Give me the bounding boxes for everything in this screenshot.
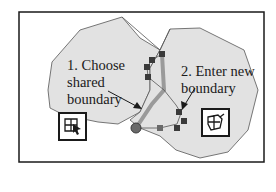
diagram-canvas: 1. Choose shared boundary 2. Enter new b… [0,0,276,192]
select-shared-boundary-icon [60,114,85,139]
vertex-marker [176,109,182,115]
start-vertex-marker [131,123,141,133]
vertex-marker [157,125,163,131]
vertex-marker [174,125,180,131]
step1-label: 1. Choose shared boundary [67,57,125,108]
vertex-marker [149,57,155,63]
vertex-marker [145,74,151,80]
edit-boundary-tool[interactable] [201,108,230,137]
select-shared-boundary-tool[interactable] [58,112,87,141]
step2-label: 2. Enter new boundary [181,63,255,97]
vertex-marker [159,51,165,57]
edit-boundary-icon [203,110,228,135]
vertex-marker [181,118,187,124]
vertex-marker [144,64,150,70]
